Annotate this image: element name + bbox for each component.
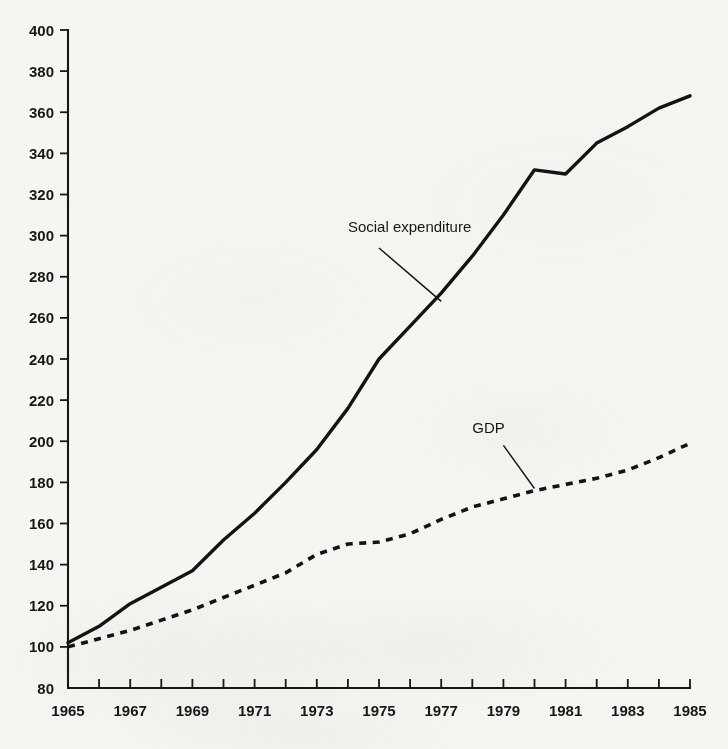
y-axis-tick-label: 360 (29, 104, 54, 121)
series-annotations: Social expenditureGDP (348, 218, 535, 489)
series-annotation-label: Social expenditure (348, 218, 471, 235)
x-axis-tick-label: 1969 (176, 702, 209, 719)
x-axis-tick-label: 1977 (425, 702, 458, 719)
annotation-leader-line (379, 248, 441, 301)
y-axis-tick-label: 320 (29, 186, 54, 203)
series-line-gdp (68, 443, 690, 647)
x-axis-tick-label: 1973 (300, 702, 333, 719)
x-axis-tick-labels: 1965196719691971197319751977197919811983… (51, 702, 706, 719)
y-axis-tick-label: 220 (29, 392, 54, 409)
y-axis-tick-label: 160 (29, 515, 54, 532)
x-axis-tick-label: 1965 (51, 702, 84, 719)
y-axis-tick-label: 280 (29, 268, 54, 285)
y-axis-tick-label: 100 (29, 638, 54, 655)
series-line-social-expenditure (68, 96, 690, 643)
x-axis-tick-label: 1967 (114, 702, 147, 719)
data-series (68, 96, 690, 647)
y-axis-tick-label: 380 (29, 63, 54, 80)
series-annotation-label: GDP (472, 419, 505, 436)
x-axis-tick-label: 1983 (611, 702, 644, 719)
y-axis-tick-label: 260 (29, 309, 54, 326)
annotation-leader-line (503, 445, 534, 488)
x-axis-tick-label: 1971 (238, 702, 271, 719)
y-axis-tick-label: 200 (29, 433, 54, 450)
y-axis-tick-labels: 8010012014016018020022024026028030032034… (29, 22, 54, 697)
y-axis-tick-label: 80 (37, 680, 54, 697)
y-axis-tick-label: 180 (29, 474, 54, 491)
y-axis-tick-label: 400 (29, 22, 54, 39)
line-chart: 8010012014016018020022024026028030032034… (0, 0, 728, 749)
x-axis-tick-label: 1979 (487, 702, 520, 719)
y-axis-tick-label: 340 (29, 145, 54, 162)
x-axis-tick-label: 1975 (362, 702, 395, 719)
y-axis-tick-label: 140 (29, 556, 54, 573)
x-axis-tick-label: 1981 (549, 702, 582, 719)
y-axis-tick-label: 240 (29, 351, 54, 368)
x-axis-tick-label: 1985 (673, 702, 706, 719)
y-axis-tick-label: 120 (29, 597, 54, 614)
y-axis-tick-label: 300 (29, 227, 54, 244)
figure-container: 8010012014016018020022024026028030032034… (0, 0, 728, 749)
